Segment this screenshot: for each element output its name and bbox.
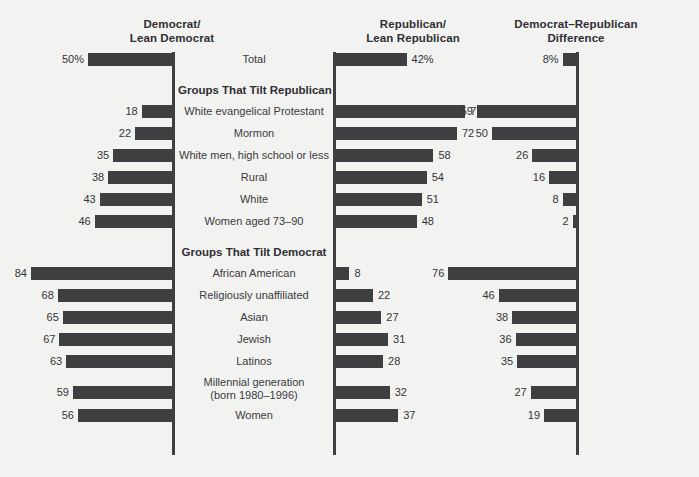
bar-value-diff: 2 [499,215,569,228]
bar-value-dem: 43 [26,193,96,206]
bar-diff [492,127,576,140]
row-label-line: Women [176,409,332,422]
bar-value-dem: 67 [0,333,55,346]
header-line: Difference [486,31,666,45]
bar-diff [531,386,576,399]
bar-value-diff: 59 [403,105,473,118]
row-label-line: Rural [176,171,332,184]
section-title: Groups That Tilt Democrat [178,246,330,258]
bar-value-dem: 65 [0,311,59,324]
row-label: African American [176,267,332,280]
bar-value-rep: 58 [438,149,450,162]
bar-value-diff: 38 [438,311,508,324]
row-label-line: Total [176,53,332,66]
row-label-line: Asian [176,311,332,324]
bar-dem [58,289,172,302]
row-label: Total [176,53,332,66]
column-header-difference: Democrat–RepublicanDifference [486,17,666,45]
bar-dem [135,127,172,140]
bar-value-dem: 18 [68,105,138,118]
bar-value-diff: 50 [418,127,488,140]
row-label-line: (born 1980–1996) [176,389,332,402]
row-label-line: Mormon [176,127,332,140]
bar-dem [100,193,172,206]
bar-value-dem: 35 [39,149,109,162]
row-label-line: Religiously unaffiliated [176,289,332,302]
bar-value-dem: 22 [61,127,131,140]
bar-value-rep: 8 [354,267,360,280]
bar-value-dem: 46 [21,215,91,228]
chart-canvas: Democrat/Lean Democrat Republican/Lean R… [0,0,699,477]
header-line: Lean Republican [333,31,493,45]
row-label-line: Women aged 73–90 [176,215,332,228]
bar-value-rep: 48 [422,215,434,228]
row-label: White men, high school or less [176,149,332,162]
row-label: White evangelical Protestant [176,105,332,118]
bar-value-dem: 63 [0,355,62,368]
row-label-line: African American [176,267,332,280]
bar-value-rep: 37 [403,409,415,422]
bar-value-dem: 59 [0,386,69,399]
bar-rep [336,409,398,422]
bar-value-diff: 76 [374,267,444,280]
section-title: Groups That Tilt Republican [178,84,330,96]
bar-value-diff: 8% [489,53,559,66]
bar-diff [544,409,576,422]
bar-dem [88,53,172,66]
bar-value-dem: 56 [4,409,74,422]
bar-value-rep: 51 [427,193,439,206]
axis-line-difference [576,52,579,455]
bar-dem [31,267,172,280]
bar-rep [336,53,407,66]
bar-dem [59,333,172,346]
bar-value-rep: 54 [432,171,444,184]
row-label-line: Latinos [176,355,332,368]
bar-value-dem: 50% [14,53,84,66]
row-label: Women [176,409,332,422]
bar-rep [336,311,381,324]
row-label: Asian [176,311,332,324]
bar-diff [563,193,576,206]
bar-rep [336,333,388,346]
bar-dem [95,215,172,228]
bar-value-rep: 28 [388,355,400,368]
bar-diff [573,215,576,228]
bar-diff [516,333,576,346]
header-line: Republican/ [333,17,493,31]
header-line: Democrat/ [92,17,252,31]
bar-dem [63,311,172,324]
column-header-republican: Republican/Lean Republican [333,17,493,45]
bar-dem [108,171,172,184]
bar-value-diff: 19 [470,409,540,422]
bar-value-diff: 46 [425,289,495,302]
bar-value-rep: 27 [386,311,398,324]
bar-value-rep: 31 [393,333,405,346]
bar-value-dem: 84 [0,267,27,280]
bar-rep [336,215,417,228]
bar-value-rep: 22 [378,289,390,302]
header-line: Lean Democrat [92,31,252,45]
bar-rep [336,289,373,302]
row-label: Latinos [176,355,332,368]
row-label: White [176,193,332,206]
bar-diff [532,149,576,162]
row-label: Mormon [176,127,332,140]
bar-diff [563,53,576,66]
row-label-line: Jewish [176,333,332,346]
bar-rep [336,193,422,206]
bar-diff [549,171,576,184]
bar-diff [448,267,576,280]
bar-rep [336,386,390,399]
row-label-line: White evangelical Protestant [176,105,332,118]
bar-value-diff: 27 [457,386,527,399]
row-label-line: White [176,193,332,206]
bar-value-diff: 26 [458,149,528,162]
bar-value-diff: 35 [443,355,513,368]
header-line: Democrat–Republican [486,17,666,31]
bar-dem [113,149,172,162]
row-label: Religiously unaffiliated [176,289,332,302]
row-label: Millennial generation(born 1980–1996) [176,376,332,402]
bar-diff [512,311,576,324]
row-label: Jewish [176,333,332,346]
bar-value-diff: 36 [442,333,512,346]
